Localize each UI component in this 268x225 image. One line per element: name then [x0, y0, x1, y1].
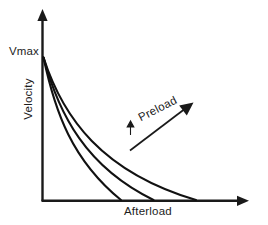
y-axis-label: Velocity: [22, 68, 34, 130]
diagram-canvas: [0, 0, 268, 225]
x-axis-arrowhead-icon: [237, 196, 249, 206]
y-axis-arrowhead-icon: [37, 9, 47, 21]
y-axis: [37, 9, 47, 201]
vmax-label: Vmax: [9, 45, 39, 57]
curve-group: [44, 58, 197, 201]
up-arrow-head: [127, 121, 134, 127]
x-axis-label: Afterload: [124, 205, 172, 217]
force-velocity-diagram: Vmax Velocity Afterload Preload: [0, 0, 268, 225]
preload-up-arrow-icon: [127, 121, 134, 135]
preload-arrowhead-icon: [179, 103, 193, 116]
